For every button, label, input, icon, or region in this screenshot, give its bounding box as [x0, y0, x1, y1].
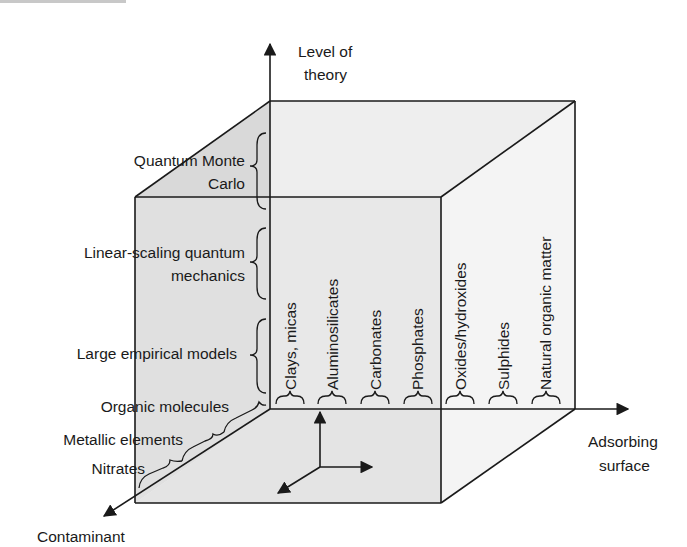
- vertical-axis-label: Level of: [298, 43, 353, 60]
- 3d-cube-diagram: Level of theory Adsorbing surface Contam…: [0, 0, 687, 547]
- depth-axis-label: Contaminant: [37, 528, 126, 545]
- contaminant-label-nitrates: Nitrates: [92, 460, 146, 477]
- surface-label-sulphides: Sulphides: [495, 322, 512, 390]
- surface-label-carbonates: Carbonates: [367, 310, 384, 390]
- level-label-qmc-line2: Carlo: [208, 175, 245, 192]
- surface-label-clays: Clays, micas: [282, 302, 299, 390]
- level-label-empirical: Large empirical models: [77, 345, 237, 362]
- level-label-qmc: Quantum Monte: [134, 152, 245, 169]
- level-label-linear: Linear-scaling quantum: [84, 244, 245, 261]
- surface-label-natural-organic: Natural organic matter: [537, 237, 554, 390]
- contaminant-label-metallic: Metallic elements: [63, 431, 183, 448]
- vertical-axis-label-line2: theory: [304, 66, 347, 83]
- horizontal-axis-label: Adsorbing: [588, 433, 658, 450]
- contaminant-label-organic: Organic molecules: [101, 398, 230, 415]
- surface-label-oxides: Oxides/hydroxides: [452, 262, 469, 390]
- surface-label-phosphates: Phosphates: [409, 308, 426, 390]
- horizontal-axis-label-line2: surface: [599, 457, 650, 474]
- level-label-linear-line2: mechanics: [171, 267, 245, 284]
- surface-label-aluminosilicates: Aluminosilicates: [324, 279, 341, 390]
